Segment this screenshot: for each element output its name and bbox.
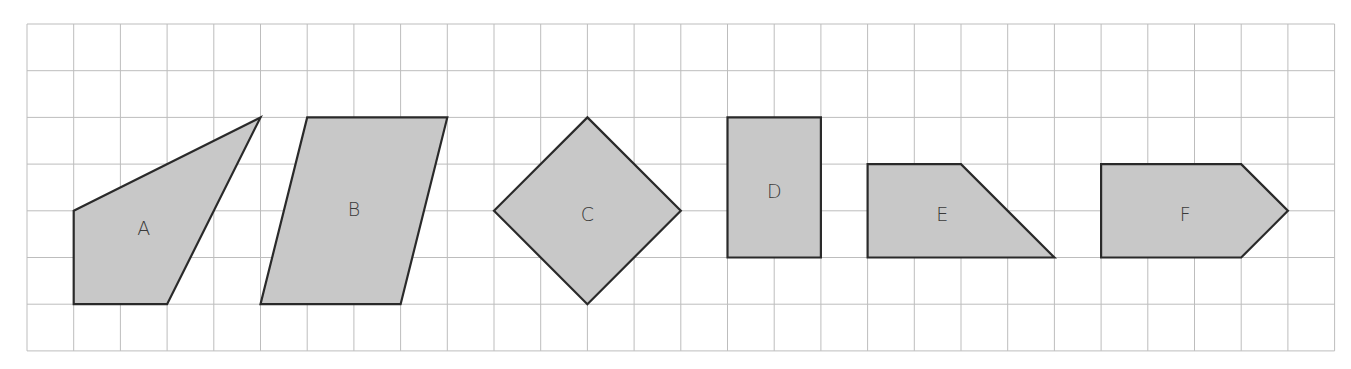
shape-e-label: E <box>936 203 948 225</box>
shape-a-label: A <box>137 217 150 239</box>
shape-c-label: C <box>581 203 594 225</box>
grid-diagram: A B C D E F <box>0 0 1351 369</box>
shape-f: F <box>1101 164 1288 257</box>
shape-f-label: F <box>1180 203 1191 225</box>
shape-d: D <box>728 117 821 257</box>
shape-c: C <box>494 117 681 304</box>
shape-f-polygon <box>1101 164 1288 257</box>
shape-b: B <box>261 117 448 304</box>
shape-b-label: B <box>348 198 360 220</box>
shape-d-label: D <box>767 180 782 202</box>
